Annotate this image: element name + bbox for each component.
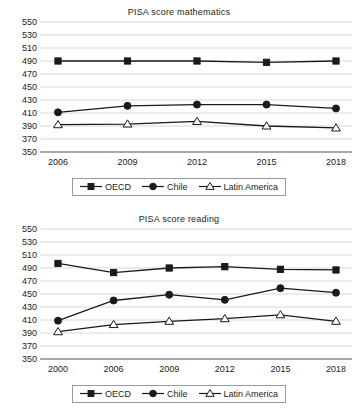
x-tick-label: 2018 [326,364,346,374]
y-tick-label: 350 [22,354,37,364]
y-tick-label: 490 [22,263,37,273]
legend-item-label: Chile [167,389,188,399]
x-tick-label: 2000 [48,364,68,374]
x-tick-label: 2012 [215,364,235,374]
y-tick-label: 430 [22,302,37,312]
legend-item-oecd[interactable]: OECD [80,388,131,399]
y-tick-label: 450 [22,82,37,92]
y-tick-label: 390 [22,328,37,338]
plot-area-reading: 350370390410430450470490510530550 200020… [0,207,358,382]
lines-svg-mathematics [40,0,352,175]
x-tick-label: 2018 [326,157,346,167]
y-tick-label: 450 [22,289,37,299]
y-axis-labels-reading: 350370390410430450470490510530550 [0,207,40,382]
x-axis-labels-reading: 200020062009201220152018 [40,364,352,380]
legend-item-label: Chile [167,182,188,192]
y-tick-label: 470 [22,69,37,79]
plot-canvas-reading [40,207,352,382]
legend-item-label: Latin America [224,182,279,192]
x-axis-labels-mathematics: 20062009201220152018 [40,157,352,173]
x-tick-label: 2015 [270,364,290,374]
y-axis-labels-mathematics: 350370390410430450470490510530550 [0,0,40,175]
y-tick-label: 510 [22,250,37,260]
legend-mathematics: OECDChileLatin America [0,178,358,196]
legend-item-chile[interactable]: Chile [142,181,188,192]
y-tick-label: 370 [22,341,37,351]
legend-item-latin-america[interactable]: Latin America [199,181,279,192]
x-tick-label: 2006 [104,364,124,374]
y-tick-label: 370 [22,134,37,144]
legend-item-label: OECD [105,182,131,192]
legend-item-label: Latin America [224,389,279,399]
y-tick-label: 350 [22,147,37,157]
legend-reading: OECDChileLatin America [0,385,358,403]
y-tick-label: 550 [22,224,37,234]
x-tick-label: 2009 [159,364,179,374]
square-marker-icon [80,181,102,192]
square-marker-icon [80,388,102,399]
chart-pisa-mathematics: PISA score mathematics 35037039041043045… [0,0,358,207]
y-tick-label: 470 [22,276,37,286]
x-tick-label: 2009 [117,157,137,167]
y-tick-label: 410 [22,108,37,118]
y-tick-label: 510 [22,43,37,53]
y-tick-label: 430 [22,95,37,105]
legend-box-reading: OECDChileLatin America [72,385,286,403]
lines-svg-reading [40,207,352,382]
y-tick-label: 530 [22,30,37,40]
chart-pisa-reading: PISA score reading 350370390410430450470… [0,207,358,414]
legend-item-chile[interactable]: Chile [142,388,188,399]
y-tick-label: 490 [22,56,37,66]
x-tick-label: 2006 [48,157,68,167]
legend-item-latin-america[interactable]: Latin America [199,388,279,399]
plot-canvas-mathematics [40,0,352,175]
circle-marker-icon [142,181,164,192]
legend-box-mathematics: OECDChileLatin America [72,178,286,196]
y-tick-label: 550 [22,17,37,27]
x-tick-label: 2015 [256,157,276,167]
plot-area-mathematics: 350370390410430450470490510530550 200620… [0,0,358,175]
legend-item-oecd[interactable]: OECD [80,181,131,192]
y-tick-label: 390 [22,121,37,131]
circle-marker-icon [142,388,164,399]
y-tick-label: 410 [22,315,37,325]
legend-item-label: OECD [105,389,131,399]
y-tick-label: 530 [22,237,37,247]
triangle-marker-icon [199,181,221,192]
pisa-charts-page: PISA score mathematics 35037039041043045… [0,0,358,414]
triangle-marker-icon [199,388,221,399]
x-tick-label: 2012 [187,157,207,167]
